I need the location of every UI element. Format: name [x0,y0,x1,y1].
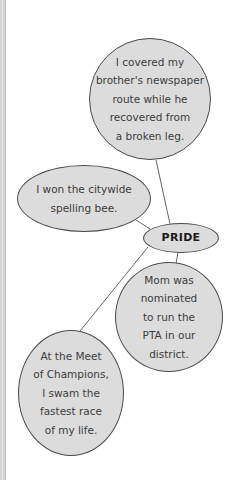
node-newspaper-route: I covered my brother's newspaper route w… [89,38,211,160]
node-pta-nomination: Mom was nominated to run the PTA in our … [115,262,223,372]
node-text: At the Meet of Champions, I swam the fas… [33,347,109,440]
node-spelling-bee: I won the citywide spelling bee. [17,165,151,232]
center-label: PRIDE [162,229,201,248]
node-text: Mom was nominated to run the PTA in our … [141,271,198,364]
center-node-pride: PRIDE [143,223,219,253]
link-spelling [136,220,150,229]
node-text: I won the citywide spelling bee. [36,180,132,217]
link-newspaper [156,160,170,224]
node-text: I covered my brother's newspaper route w… [96,53,204,146]
node-swim-meet: At the Meet of Champions, I swam the fas… [18,330,124,456]
